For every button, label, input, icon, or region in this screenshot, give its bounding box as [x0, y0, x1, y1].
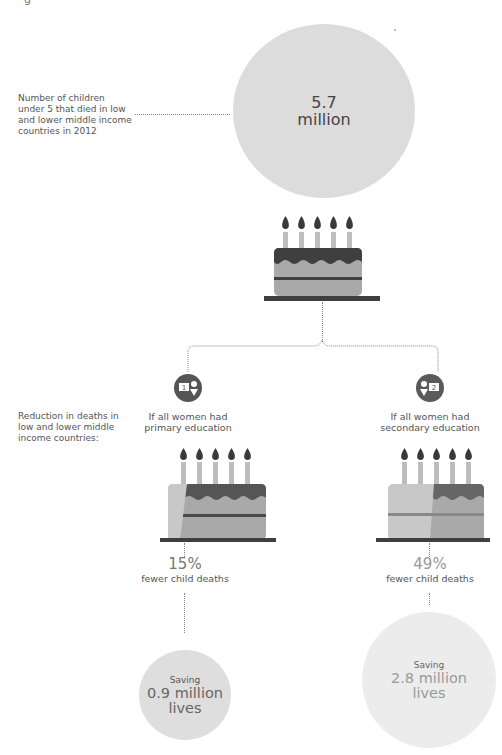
primary-education-badge: 1: [174, 374, 202, 402]
caption-line: primary education: [138, 422, 238, 433]
reduction-label-line: income countries:: [18, 433, 138, 444]
saving-unit: lives: [168, 701, 201, 716]
svg-text:2: 2: [432, 384, 436, 392]
intro-label: Number of children under 5 that died in …: [18, 93, 168, 137]
top-circle: 5.7 million: [233, 24, 415, 198]
reduction-label-line: low and lower middle: [18, 422, 138, 433]
saving-value: 0.9 million: [147, 686, 223, 701]
primary-connector-lower: [184, 593, 185, 633]
cake-primary-icon: [160, 446, 280, 542]
saving-label: Saving: [170, 675, 200, 686]
caption-line: secondary education: [370, 422, 490, 433]
secondary-education-badge: 2: [416, 374, 444, 402]
primary-effect: fewer child deaths: [135, 573, 235, 584]
reduction-label-line: Reduction in deaths in: [18, 411, 138, 422]
saving-value: 2.8 million: [391, 671, 467, 686]
primary-saving-circle: Saving 0.9 million lives: [139, 650, 231, 740]
cake-icon: [262, 210, 382, 306]
secondary-education-icon: 2: [416, 374, 444, 402]
top-circle-value: 5.7: [311, 94, 336, 111]
cake-secondary-icon: [372, 446, 492, 542]
header-cutoff-text: g: [24, 0, 31, 5]
tree-connector-branches: [180, 336, 445, 374]
intro-label-line: Number of children: [18, 93, 168, 104]
secondary-percent: 49%: [380, 556, 480, 572]
secondary-effect: fewer child deaths: [375, 573, 485, 584]
speck: [394, 29, 396, 31]
saving-unit: lives: [412, 686, 445, 701]
primary-education-icon: 1: [174, 374, 202, 402]
caption-line: If all women had: [138, 411, 238, 422]
intro-label-line: and lower middle income: [18, 115, 168, 126]
secondary-education-caption: If all women had secondary education: [370, 411, 490, 433]
primary-percent: 15%: [135, 556, 235, 572]
primary-education-caption: If all women had primary education: [138, 411, 238, 433]
intro-connector-line: [135, 114, 230, 115]
intro-label-line: countries in 2012: [18, 126, 168, 137]
caption-line: If all women had: [370, 411, 490, 422]
saving-label: Saving: [414, 660, 444, 671]
reduction-label: Reduction in deaths in low and lower mid…: [18, 411, 138, 444]
secondary-connector-lower: [429, 593, 430, 605]
secondary-saving-circle: Saving 2.8 million lives: [362, 612, 496, 748]
svg-text:1: 1: [182, 384, 186, 392]
top-circle-unit: million: [297, 111, 350, 128]
